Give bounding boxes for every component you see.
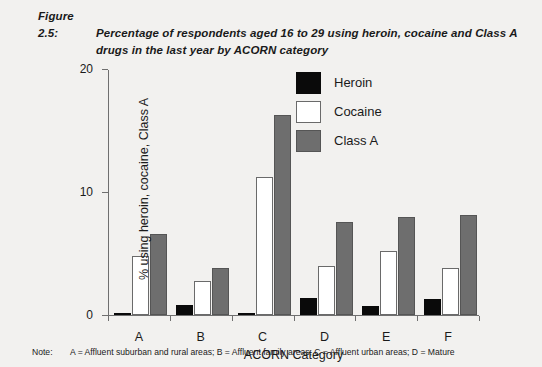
bar-group [232,70,294,315]
figure-title-line1: Percentage of respondents aged 16 to 29 … [96,27,518,39]
bar-series-container [108,70,479,315]
y-tick-label: 20 [80,63,93,75]
bar-group [417,70,479,315]
legend-label: Heroin [334,75,372,90]
bar-cocaine [442,268,459,315]
x-tick [170,316,171,321]
figure-title: Figure 2.5:Percentage of respondents age… [38,8,528,59]
x-axis-label-a: A [109,330,169,344]
figure-number: Figure 2.5: [38,8,96,42]
legend-label: Cocaine [334,104,382,119]
bar-cocaine [318,266,335,315]
plot-area: 01020 % using heroin, cocaine, Class A [108,70,479,316]
legend-label: Class A [334,133,378,148]
chart-container: 01020 % using heroin, cocaine, Class A A… [0,56,542,338]
y-tick-label: 10 [80,186,93,198]
x-tick [479,316,480,321]
x-axis-label-d: D [294,330,354,344]
bar-group [170,70,232,315]
bar-cocaine [194,281,211,315]
x-axis-label-e: E [356,330,416,344]
x-tick [108,316,109,321]
figure-note: Note:A = Affluent suburban and rural are… [32,346,532,358]
legend-item: Heroin [296,68,382,97]
x-tick [355,316,356,321]
bar-classa [336,222,353,315]
legend-item: Class A [296,126,382,155]
bar-classa [398,217,415,315]
legend-item: Cocaine [296,97,382,126]
x-tick [232,316,233,321]
y-tick-label: 0 [86,309,93,321]
bar-classa [150,234,167,315]
legend-swatch-heroin [296,72,321,94]
bar-cocaine [256,177,273,315]
x-axis-labels: ABCDEF [108,330,479,346]
note-label: Note: [32,346,70,358]
chart-legend: HeroinCocaineClass A [296,68,382,155]
x-tick [294,316,295,321]
bar-heroin [114,313,131,315]
legend-swatch-classa [296,130,321,152]
bar-heroin [176,305,193,315]
x-axis-label-f: F [418,330,478,344]
legend-swatch-cocaine [296,101,321,123]
bar-heroin [300,298,317,315]
bar-classa [274,115,291,315]
bar-heroin [424,299,441,315]
y-axis-title: % using heroin, cocaine, Class A [137,89,151,289]
bar-heroin [238,313,255,315]
bar-classa [212,268,229,315]
bar-classa [460,215,477,315]
bar-cocaine [380,251,397,315]
x-axis-label-b: B [171,330,231,344]
note-text: A = Affluent suburban and rural areas; B… [70,347,455,357]
x-axis-label-c: C [233,330,293,344]
x-tick [417,316,418,321]
bar-heroin [362,306,379,315]
